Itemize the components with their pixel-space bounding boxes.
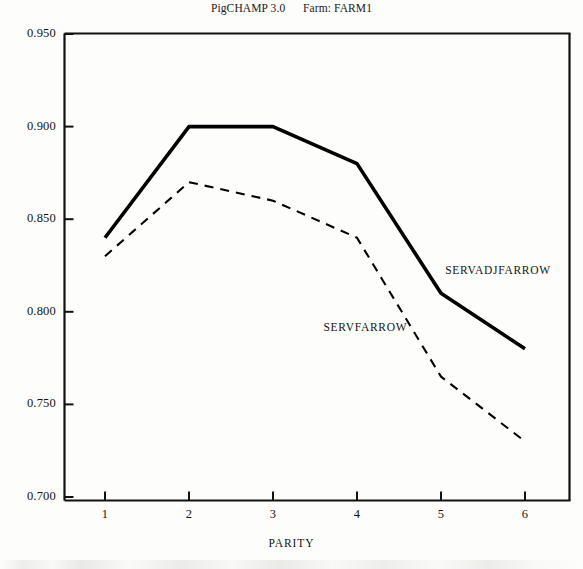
x-axis-ticks <box>105 492 525 501</box>
x-axis-title: PARITY <box>0 537 583 549</box>
x-tick-label: 1 <box>93 507 117 522</box>
series-line-servadjfarrow <box>105 127 525 349</box>
scan-artifact <box>0 560 583 569</box>
x-tick-label: 2 <box>177 507 201 522</box>
series-label-servadjfarrow: SERVADJFARROW <box>445 264 551 276</box>
y-tick-label: 0.800 <box>8 304 56 319</box>
y-tick-label: 0.850 <box>8 211 56 226</box>
y-axis-ticks <box>65 34 74 497</box>
chart-figure: PigCHAMP 3.0 Farm: FARM1 0.9500.9000.850… <box>0 0 583 569</box>
y-tick-label: 0.700 <box>8 489 56 504</box>
y-tick-label: 0.750 <box>8 396 56 411</box>
y-tick-label: 0.900 <box>8 119 56 134</box>
y-tick-label: 0.950 <box>8 26 56 41</box>
x-tick-label: 3 <box>261 507 285 522</box>
x-tick-label: 5 <box>429 507 453 522</box>
data-series-group <box>105 127 525 442</box>
series-line-servfarrow <box>105 182 525 441</box>
series-label-servfarrow: SERVFARROW <box>323 321 407 333</box>
x-tick-label: 4 <box>345 507 369 522</box>
plot-canvas <box>0 0 583 569</box>
x-tick-label: 6 <box>513 507 537 522</box>
